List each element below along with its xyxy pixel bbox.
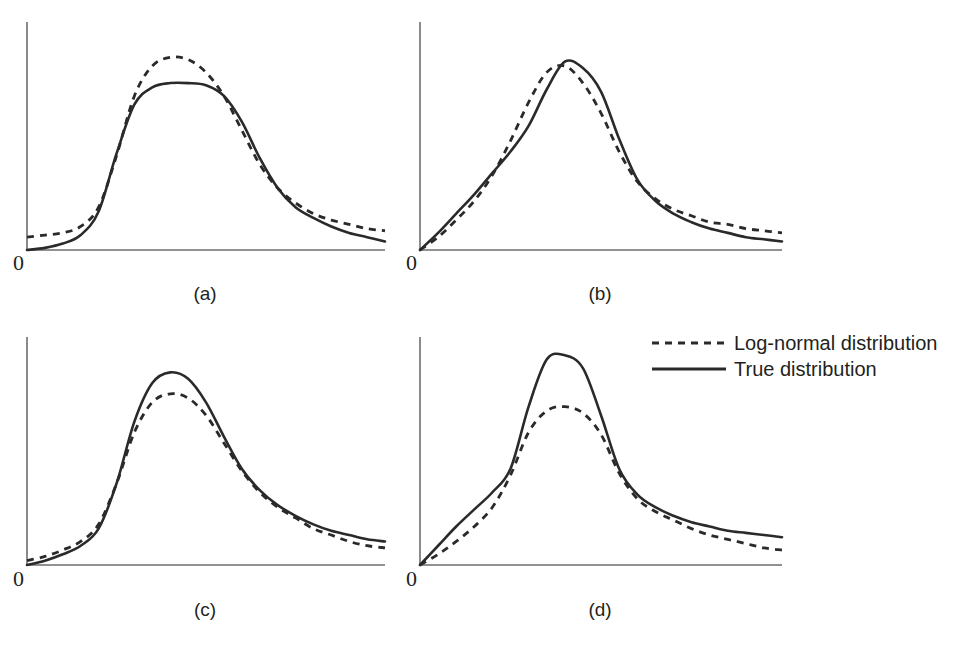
panel-b-axes [420,22,782,250]
panel-a-caption: (a) [165,283,245,305]
legend-item-true: True distribution [650,356,979,382]
panel-d-origin-label: 0 [406,568,417,590]
panel-b-origin-label: 0 [406,252,417,274]
legend: Log-normal distribution True distributio… [650,330,979,382]
panel-a-origin-label: 0 [13,252,24,274]
panel-d-caption: (d) [560,599,640,621]
distribution-comparison-plot [0,0,979,649]
solid-line-swatch-icon [650,362,728,376]
panel-b [420,22,782,250]
panel-a [27,22,385,250]
legend-label-lognormal: Log-normal distribution [728,332,937,355]
panel-c [27,337,385,565]
panel-c-origin-label: 0 [13,568,24,590]
panel-a-axes [27,22,385,250]
panel-b-true-curve [420,60,782,250]
panel-c-caption: (c) [165,599,245,621]
panel-b-caption: (b) [560,283,640,305]
legend-item-lognormal: Log-normal distribution [650,330,979,356]
figure-canvas: 0 0 0 0 (a) (b) (c) (d) Log-normal distr… [0,0,979,649]
panel-d-lognormal-curve [420,407,782,565]
dashed-line-swatch-icon [650,336,728,350]
legend-label-true: True distribution [728,358,877,381]
panel-c-lognormal-curve [27,394,385,561]
panel-d-true-curve [420,354,782,565]
